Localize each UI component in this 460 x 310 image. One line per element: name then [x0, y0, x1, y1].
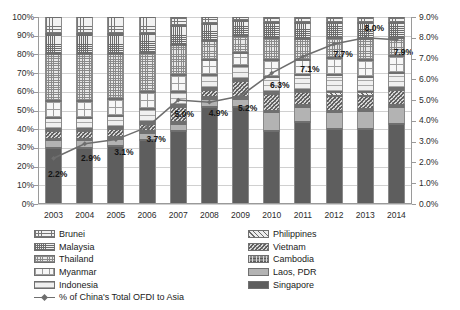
y-axis-left-tick: 50%: [2, 105, 34, 115]
legend-item[interactable]: Myanmar: [34, 266, 184, 279]
legend-swatch-icon: [34, 268, 55, 276]
stacked-bar-chart: 0%10%20%30%40%50%60%70%80%90%100% 0.0%1.…: [0, 0, 460, 310]
legend-item-label: Myanmar: [59, 267, 97, 277]
y-axis-right-tick: 8.0%: [419, 32, 453, 42]
legend-item-label: Thailand: [59, 254, 94, 264]
y-axis-right-tickmark: [412, 38, 416, 39]
y-axis-right-tick: 6.0%: [419, 74, 453, 84]
legend-item-label: Cambodia: [273, 254, 314, 264]
plot-area: 2.2%2.9%3.1%3.7%5.0%4.9%5.2%6.3%7.1%7.7%…: [38, 17, 412, 204]
y-axis-right-tick: 7.0%: [419, 53, 453, 63]
y-axis-left-tick: 0%: [2, 199, 34, 209]
y-axis-right-tickmark: [412, 183, 416, 184]
y-axis-left-tick: 100%: [2, 12, 34, 22]
plot-frame: [38, 17, 412, 204]
legend-item-label: Malaysia: [59, 242, 95, 252]
y-axis-right-tickmark: [412, 79, 416, 80]
legend-swatch-icon: [34, 281, 55, 289]
gridline: [38, 204, 412, 205]
legend-diamond-icon: [41, 294, 48, 301]
y-axis-left-tick: 10%: [2, 180, 34, 190]
y-axis-left-tick: 70%: [2, 68, 34, 78]
y-axis-left-tick: 20%: [2, 161, 34, 171]
legend-item[interactable]: Singapore: [248, 278, 317, 291]
y-axis-right-tickmark: [412, 17, 416, 18]
legend-swatch-icon: [34, 230, 55, 238]
y-axis-right-tick: 5.0%: [419, 95, 453, 105]
legend-swatch-icon: [248, 243, 269, 251]
y-axis-left-tick: 60%: [2, 86, 34, 96]
legend-swatch-icon: [248, 281, 269, 289]
y-axis-right-tickmark: [412, 162, 416, 163]
x-axis-tick: 2014: [378, 210, 414, 220]
legend-item[interactable]: Malaysia: [34, 241, 184, 254]
legend-swatch-icon: [34, 243, 55, 251]
legend-item-label: Singapore: [273, 280, 314, 290]
legend-line-marker-icon: [34, 293, 55, 301]
legend-column-left: BruneiMalaysiaThailandMyanmarIndonesia% …: [34, 228, 184, 304]
y-axis-right-tickmark: [412, 121, 416, 122]
y-axis-left-tick: 40%: [2, 124, 34, 134]
legend-swatch-icon: [34, 255, 55, 263]
y-axis-right-tick: 2.0%: [419, 157, 453, 167]
y-axis-right-tickmark: [412, 59, 416, 60]
legend-item[interactable]: Laos, PDR: [248, 266, 317, 279]
legend-swatch-icon: [248, 255, 269, 263]
legend-item-label: Brunei: [59, 229, 85, 239]
legend-swatch-icon: [248, 268, 269, 276]
legend-item-label: Philippines: [273, 229, 317, 239]
legend-item-label: Vietnam: [273, 242, 306, 252]
legend-item[interactable]: Brunei: [34, 228, 184, 241]
legend-item-label: % of China's Total OFDI to Asia: [59, 292, 184, 302]
y-axis-right-tickmark: [412, 204, 416, 205]
legend-column-right: PhilippinesVietnamCambodiaLaos, PDRSinga…: [248, 228, 317, 291]
y-axis-left-tick: 80%: [2, 49, 34, 59]
y-axis-right-tickmark: [412, 142, 416, 143]
y-axis-right-tick: 0.0%: [419, 199, 453, 209]
y-axis-right-tick: 3.0%: [419, 136, 453, 146]
legend-item[interactable]: % of China's Total OFDI to Asia: [34, 291, 184, 304]
legend-item[interactable]: Thailand: [34, 253, 184, 266]
legend-swatch-icon: [248, 230, 269, 238]
legend-item[interactable]: Vietnam: [248, 241, 317, 254]
y-axis-right-tickmark: [412, 100, 416, 101]
y-axis-right-tick: 4.0%: [419, 115, 453, 125]
y-axis-left-tick: 90%: [2, 30, 34, 40]
y-axis-right-tick: 9.0%: [419, 12, 453, 22]
legend-item[interactable]: Indonesia: [34, 278, 184, 291]
legend-item-label: Laos, PDR: [273, 267, 317, 277]
legend-item-label: Indonesia: [59, 280, 98, 290]
y-axis-right-tick: 1.0%: [419, 178, 453, 188]
chart-legend: BruneiMalaysiaThailandMyanmarIndonesia% …: [34, 228, 434, 306]
y-axis-left-tick: 30%: [2, 142, 34, 152]
legend-item[interactable]: Cambodia: [248, 253, 317, 266]
legend-item[interactable]: Philippines: [248, 228, 317, 241]
